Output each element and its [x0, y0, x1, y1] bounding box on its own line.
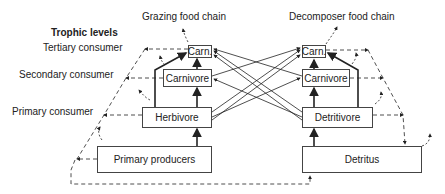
- primary-producers-box: Primary producers: [97, 146, 212, 173]
- tertiary-consumer-label: Tertiary consumer: [43, 42, 122, 54]
- grazing-carn-box: Carn.: [188, 45, 212, 58]
- grazing-carnivore-box: Carnivore: [163, 69, 212, 87]
- secondary-consumer-label: Secondary consumer: [19, 69, 114, 81]
- trophic-levels-heading: Trophic levels: [51, 27, 118, 39]
- decomposer-carn-box: Carn.: [302, 45, 326, 58]
- decomposer-carnivore-box: Carnivore: [302, 69, 350, 87]
- primary-consumer-label: Primary consumer: [12, 106, 93, 118]
- herbivore-box: Herbivore: [142, 107, 212, 128]
- detritus-box: Detritus: [302, 146, 422, 173]
- detritivore-box: Detritivore: [302, 107, 373, 128]
- decomposer-food-chain-title: Decomposer food chain: [289, 11, 395, 23]
- grazing-food-chain-title: Grazing food chain: [142, 11, 226, 23]
